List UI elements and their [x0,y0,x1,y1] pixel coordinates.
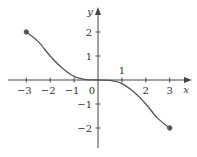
endpoint-dot [168,126,172,130]
axes [8,7,192,148]
x-tick-label: −3 [17,85,32,96]
x-axis-arrow-icon [184,77,192,83]
y-tick-label: 2 [86,27,92,38]
y-axis-arrow-icon [95,7,101,15]
x-tick-label: −2 [41,85,56,96]
tick-labels: −3−2−112321−1−20xy [17,6,189,134]
x-tick-label: 1 [119,65,125,76]
endpoint-dot [24,30,28,34]
function-graph: −3−2−112321−1−20xy [0,0,197,157]
x-tick-label: 3 [167,85,173,96]
x-tick-label: −1 [65,85,80,96]
y-tick-label: 1 [86,51,92,62]
y-axis-label: y [86,6,93,17]
y-tick-label: −1 [77,99,92,110]
x-axis-label: x [183,84,189,95]
x-tick-label: 2 [143,85,149,96]
y-tick-label: −2 [77,123,92,134]
origin-label: 0 [89,85,95,96]
